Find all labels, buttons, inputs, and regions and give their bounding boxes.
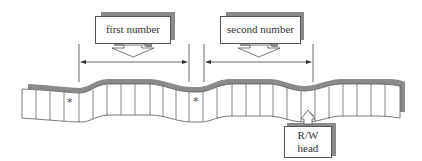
separator-asterisk-2: * [193, 95, 199, 108]
first-number-label-box: first number [95, 16, 171, 44]
second-number-label-box: second number [220, 16, 301, 44]
rw-head-label-line2: head [285, 142, 331, 155]
rw-head-label-box: R/W head [284, 126, 332, 158]
diagram-canvas [0, 0, 422, 161]
second-number-label: second number [227, 23, 294, 35]
separator-asterisk-1: * [67, 96, 73, 109]
first-number-label: first number [106, 23, 160, 35]
rw-head-label-line1: R/W [285, 129, 331, 142]
turing-tape-diagram: first number second number R/W head * * [0, 0, 422, 161]
